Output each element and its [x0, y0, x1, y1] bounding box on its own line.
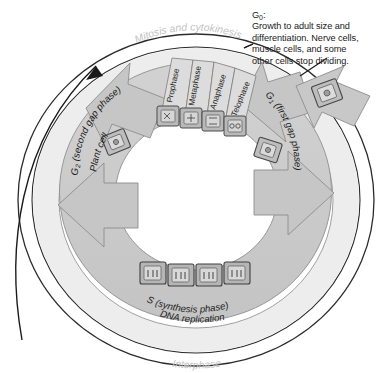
g0-callout-line-4: other cells stop dividing.	[252, 56, 388, 67]
interphase-label: Interphase	[172, 358, 222, 371]
s-cell-1	[140, 262, 166, 284]
g0-callout-title: G0:	[252, 10, 388, 21]
cell-prophase	[157, 106, 179, 126]
cell-metaphase	[180, 108, 202, 128]
mitosis-arc-label: Mitosis and cytokinesis	[133, 21, 243, 45]
cell-anaphase	[202, 111, 224, 131]
cell-cycle-figure: Mitosis and cytokinesis Interphase G1 (f…	[0, 0, 391, 373]
g0-callout-line-2: differentiation. Nerve cells,	[252, 33, 388, 44]
g0-callout: G0: Growth to adult size and differentia…	[252, 10, 388, 67]
g0-callout-line-3: muscle cells, and some	[252, 44, 388, 55]
s-cell-4	[224, 262, 250, 284]
s-cell-3	[196, 264, 222, 286]
cell-telophase	[224, 116, 246, 136]
s-cell-2	[168, 264, 194, 286]
g0-callout-line-1: Growth to adult size and	[252, 21, 388, 32]
